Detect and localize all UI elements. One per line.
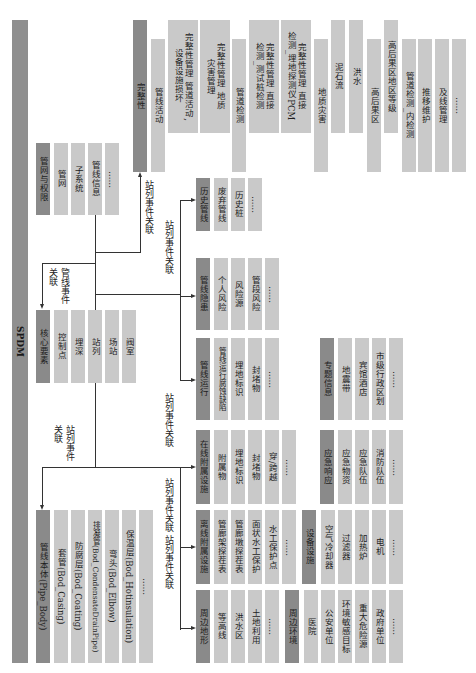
arrow-right-icon <box>191 465 196 469</box>
node-corrosion-defect: 管线运行腐蚀缺陷 <box>214 338 228 420</box>
node-filter: 过滤器 <box>338 510 352 584</box>
node-activity-damage: 完整性管理_管道活动, 设备设施损坏 <box>168 20 198 133</box>
node-geo-hazard: 地质灾害 <box>314 39 328 172</box>
root-spdm: SPDM <box>12 20 28 663</box>
label-station-event-link: 站列事件关联 <box>163 535 175 589</box>
connector-line <box>95 252 141 253</box>
arrow-up-icon <box>138 172 142 177</box>
group-header-pipe-network: 管网与权限 <box>36 143 50 215</box>
node-hotel: 宾馆酒店 <box>355 338 369 420</box>
node-government: 政府单位 <box>372 590 386 663</box>
node-hazard-more: …… <box>265 258 279 330</box>
label-station-event-link: 站列事件关联 <box>163 220 175 274</box>
group-header-hazard: 管线隐患 <box>196 258 210 330</box>
group-header-integrity: 完整性 <box>133 20 147 172</box>
node-pipe-body-more: …… <box>139 510 153 663</box>
arrow-right-icon <box>191 294 196 298</box>
connector-line <box>180 380 191 381</box>
arrow-right-icon <box>191 198 196 202</box>
label-station-event-link: 站列事件关联 <box>143 180 155 234</box>
node-air-cooler: 空气冷却器 <box>321 510 335 584</box>
node-police: 公安单位 <box>321 590 335 663</box>
label-pipe-event-link: 管线事件 关联 <box>47 268 71 304</box>
node-emergency-team: 应急队伍 <box>355 430 369 504</box>
connector-line <box>180 200 191 201</box>
node-subsystem: 子系统 <box>71 143 85 215</box>
node-hca: 高后果区 <box>367 39 381 172</box>
node-flood-zone: 洪水区 <box>231 590 245 663</box>
node-major-hazard: 重大危险源 <box>355 590 369 663</box>
node-valve-room: 阀室 <box>122 310 136 383</box>
node-pipe-network: 管网 <box>54 143 68 215</box>
node-control-point: 控制点 <box>54 310 68 383</box>
node-inline-inspection: 管道检测_内检测 <box>402 39 416 172</box>
group-header-terrain: 周边地形 <box>196 590 210 663</box>
connector-line <box>42 263 96 264</box>
connector-line <box>140 177 141 253</box>
node-buried-marker: 埋地标识 <box>231 430 245 504</box>
node-env-sensitive: 环境敏感目标 <box>338 590 352 663</box>
node-seismic-belt: 地震带 <box>338 338 352 420</box>
arrow-down-icon <box>40 505 44 510</box>
node-test-pile-inspection: 完整性管理_直接 检测_测试桩检测 <box>249 20 279 133</box>
node-hot-insulation: 保温层(Bod_Hotinsulation) <box>122 510 136 663</box>
node-pipe-inspection: 管道检测 <box>232 39 246 172</box>
arrow-down-icon <box>40 304 44 309</box>
node-pcm-inspection: 完整性管理_直接 检测_埋地探测仪PCM <box>281 20 311 133</box>
connector-line <box>42 467 43 505</box>
connector-line <box>95 294 180 295</box>
node-rack-probe: 管廊架探茬表 <box>214 510 228 584</box>
group-header-operation: 管线运行 <box>196 338 210 420</box>
connector-line <box>180 467 181 630</box>
node-station: 场站 <box>105 310 119 383</box>
node-plug-op: 封堵物 <box>248 338 262 420</box>
node-environment-more: …… <box>389 590 403 663</box>
node-plug: 封堵物 <box>248 430 262 504</box>
node-history-more: …… <box>248 178 262 231</box>
node-elbow: 弯头(Bod_Elbow) <box>105 510 119 663</box>
connector-line <box>180 628 191 629</box>
connector-line <box>180 296 191 297</box>
node-hospital: 医院 <box>304 590 318 663</box>
node-debris-flow: 泥石流 <box>331 20 345 133</box>
node-burial-depth: 埋深 <box>71 310 85 383</box>
node-buried-marker-op: 埋地标识 <box>231 338 245 420</box>
node-pipeline-activity: 管线活动 <box>151 39 165 172</box>
node-emergency-supplies: 应急物资 <box>338 430 352 504</box>
node-terrain-more: …… <box>265 590 279 663</box>
node-heater: 加热炉 <box>355 510 369 584</box>
node-equipment-more: …… <box>389 510 403 584</box>
connector-line <box>42 467 96 468</box>
node-pipe-info: 管线信息 <box>88 143 102 215</box>
label-station-event-link: 站列事件 关联 <box>52 425 76 461</box>
node-appendage: 附属物 <box>214 430 228 504</box>
node-pier-probe: 管廊墩探茬表 <box>231 510 245 584</box>
node-emergency-more: …… <box>389 430 403 504</box>
connector-line <box>95 467 181 468</box>
group-header-online-facility: 在线附属设施 <box>196 430 210 504</box>
node-hca-level: 高后果区地区等级 <box>384 20 398 133</box>
connector-line <box>180 547 191 548</box>
node-motor: 电机 <box>372 510 386 584</box>
node-pipe-network-more: …… <box>105 143 119 215</box>
node-operation-more: …… <box>265 338 279 420</box>
node-abandoned-pipe: 废弃管线 <box>214 178 228 231</box>
node-maintenance: 推移维护 <box>418 39 432 172</box>
group-header-pipe-body: 管线本体(Pipe_Body) <box>36 510 50 663</box>
group-header-history: 历史管线 <box>196 178 210 231</box>
connector-line <box>180 200 181 380</box>
connector-line <box>95 383 96 467</box>
label-station-event-link: 站列事件关联 <box>163 393 175 447</box>
group-header-core-elements: 核心要素 <box>36 310 50 383</box>
arrow-right-icon <box>191 545 196 549</box>
node-history-pile: 历史桩 <box>231 178 245 231</box>
arrow-right-icon <box>191 378 196 382</box>
connector-line <box>180 467 191 468</box>
node-station-series: 站列 <box>88 310 102 383</box>
node-segment-risk: 管段风险 <box>248 258 262 330</box>
group-header-offline-facility: 离线附属设施 <box>196 510 210 584</box>
group-header-equipment: 设备设施 <box>302 510 316 584</box>
node-casing: 套管(Bod_Casing) <box>54 510 68 663</box>
group-header-emergency: 应急响应 <box>320 430 334 504</box>
group-header-thematic: 专题信息 <box>320 338 334 420</box>
